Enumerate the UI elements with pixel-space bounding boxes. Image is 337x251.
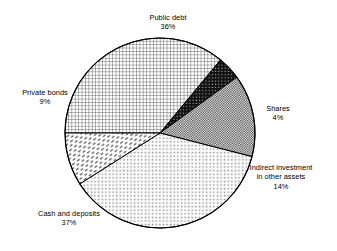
slice-label-public-debt: Public debt 36% [132, 13, 204, 32]
slice-label-shares-name: Shares [256, 104, 300, 113]
slice-label-shares-percent: 4% [256, 113, 300, 122]
slice-label-private-bonds-percent: 9% [12, 97, 78, 106]
slice-label-indirect-investment-name-line1: Indirect investment [231, 163, 331, 172]
slice-label-public-debt-percent: 36% [132, 22, 204, 31]
slice-label-private-bonds-name: Private bonds [12, 88, 78, 97]
slice-label-indirect-investment: Indirect investment in other assets 14% [231, 163, 331, 191]
slice-label-indirect-investment-name-line2: in other assets [231, 172, 331, 181]
slice-label-indirect-investment-percent: 14% [231, 182, 331, 191]
slice-label-private-bonds: Private bonds 9% [12, 88, 78, 107]
slice-label-cash-and-deposits-percent: 37% [17, 218, 121, 227]
slice-label-cash-and-deposits: Cash and deposits 37% [17, 209, 121, 228]
slice-label-shares: Shares 4% [256, 104, 300, 123]
pie-slices [65, 38, 255, 228]
slice-label-public-debt-name: Public debt [132, 13, 204, 22]
slice-label-cash-and-deposits-name: Cash and deposits [17, 209, 121, 218]
pie-chart-figure: Public debt 36% Private bonds 9% Shares … [0, 0, 337, 251]
